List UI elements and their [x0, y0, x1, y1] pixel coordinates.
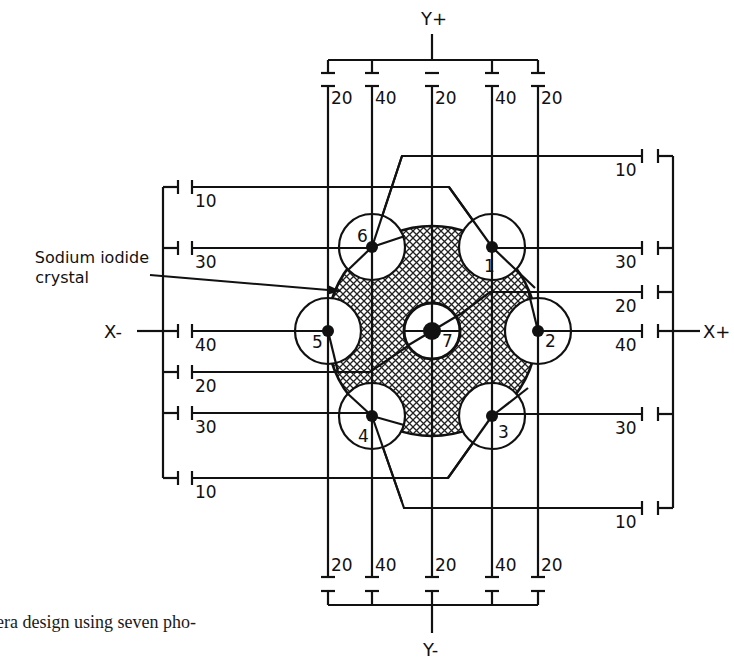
svg-text:40: 40 [375, 555, 397, 575]
svg-text:20: 20 [541, 555, 563, 575]
svg-text:20: 20 [331, 555, 353, 575]
svg-text:4: 4 [358, 426, 369, 446]
crystal-label: Sodium iodide crystal [11, 248, 149, 288]
svg-text:20: 20 [615, 296, 637, 316]
svg-text:40: 40 [495, 88, 517, 108]
svg-text:2: 2 [545, 331, 556, 351]
crystal-label-line1: Sodium iodide [11, 248, 149, 268]
figure-caption-fragment: era design using seven pho- [0, 612, 196, 633]
svg-text:30: 30 [615, 418, 637, 438]
x-minus-label: X- [104, 321, 122, 342]
y-plus-weights: 20 40 20 40 20 [331, 88, 563, 108]
svg-text:40: 40 [195, 335, 217, 355]
y-minus-weights: 20 40 20 40 20 [331, 555, 563, 575]
x-plus-bus [642, 149, 700, 515]
svg-text:7: 7 [442, 331, 453, 351]
svg-text:40: 40 [375, 88, 397, 108]
svg-text:5: 5 [312, 332, 323, 352]
crystal-pointer-arrow [150, 275, 340, 291]
svg-text:20: 20 [541, 88, 563, 108]
svg-text:3: 3 [498, 422, 509, 442]
svg-text:20: 20 [195, 376, 217, 396]
svg-text:30: 30 [195, 417, 217, 437]
svg-text:1: 1 [484, 256, 495, 276]
x-plus-weights: 10 30 20 40 30 10 [615, 160, 637, 532]
x-plus-label: X+ [703, 321, 730, 342]
x-minus-weights: 10 30 40 20 30 10 [195, 191, 217, 502]
svg-text:40: 40 [615, 335, 637, 355]
x-minus-bus [137, 180, 192, 485]
y-plus-bus [321, 34, 545, 86]
crystal-label-line2: crystal [11, 268, 149, 288]
svg-text:10: 10 [615, 160, 637, 180]
y-minus-label: Y- [422, 639, 438, 660]
svg-text:40: 40 [495, 555, 517, 575]
svg-text:20: 20 [435, 88, 457, 108]
svg-text:30: 30 [195, 252, 217, 272]
svg-text:10: 10 [195, 191, 217, 211]
svg-text:20: 20 [331, 88, 353, 108]
svg-text:10: 10 [195, 482, 217, 502]
svg-text:6: 6 [357, 226, 368, 246]
svg-text:20: 20 [435, 555, 457, 575]
svg-text:30: 30 [615, 252, 637, 272]
gamma-camera-diagram: 1 2 3 4 5 6 7 Y+ Y- X- X+ 20 40 20 40 20… [0, 0, 734, 660]
y-plus-label: Y+ [420, 8, 447, 29]
svg-text:10: 10 [615, 512, 637, 532]
y-minus-bus [321, 577, 545, 633]
